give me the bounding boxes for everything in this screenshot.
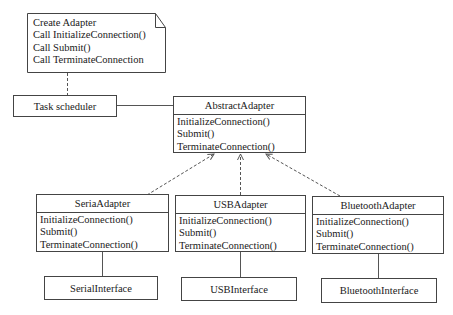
class-name: AbstractAdapter [174, 97, 305, 115]
method: InitializeConnection() [179, 215, 305, 227]
bluetooth-adapter-class: BluetoothAdapter InitializeConnection() … [312, 196, 444, 254]
class-name: SeriaAdapter [37, 195, 168, 213]
method-list: InitializeConnection() Submit() Terminat… [313, 215, 443, 253]
method-list: InitializeConnection() Submit() Terminat… [174, 115, 305, 153]
note-line: Call InitializeConnection() [33, 29, 146, 41]
method: Submit() [40, 226, 168, 238]
method: InitializeConnection() [177, 116, 305, 128]
note-line: Call Submit() [33, 42, 146, 54]
interface-label: SerialInterface [70, 283, 132, 294]
realization-arrow-bluetooth [266, 154, 340, 196]
method: Submit() [179, 227, 305, 239]
realization-arrow-serial [147, 154, 214, 195]
serial-interface-box: SerialInterface [44, 276, 158, 300]
method: Submit() [316, 228, 443, 240]
note-line: Create Adapter [33, 17, 146, 29]
method: InitializeConnection() [316, 216, 443, 228]
method: TerminateConnection() [40, 239, 168, 251]
class-name: USBAdapter [176, 196, 305, 214]
method: InitializeConnection() [40, 214, 168, 226]
method: TerminateConnection() [179, 240, 305, 252]
interface-label: USBInterface [210, 284, 268, 295]
usb-adapter-class: USBAdapter InitializeConnection() Submit… [175, 195, 306, 252]
method: TerminateConnection() [316, 241, 443, 253]
method-list: InitializeConnection() Submit() Terminat… [37, 213, 168, 251]
method: TerminateConnection() [177, 141, 305, 153]
method-list: InitializeConnection() Submit() Terminat… [176, 214, 305, 252]
note-line: Call TerminateConnection [33, 54, 146, 66]
task-scheduler-label: Task scheduler [34, 101, 97, 112]
note: Create Adapter Call InitializeConnection… [33, 17, 146, 66]
usb-interface-box: USBInterface [181, 277, 297, 301]
serial-adapter-class: SeriaAdapter InitializeConnection() Subm… [36, 194, 169, 252]
bluetooth-interface-box: BluetoothInterface [321, 278, 437, 303]
interface-label: BluetoothInterface [340, 285, 419, 296]
class-name: BluetoothAdapter [313, 197, 443, 215]
method: Submit() [177, 128, 305, 140]
task-scheduler-box: Task scheduler [13, 95, 117, 117]
abstract-adapter-class: AbstractAdapter InitializeConnection() S… [173, 96, 306, 153]
